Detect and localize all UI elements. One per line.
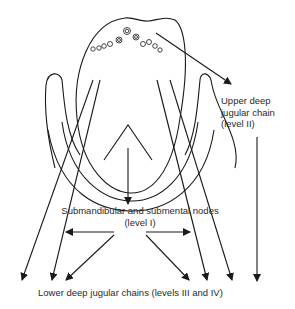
tongue-outline	[76, 18, 185, 118]
label-lower-deep-jugular: Lower deep jugular chains (levels III an…	[38, 287, 223, 299]
arrow-left-outer	[22, 80, 93, 280]
arrow-level1-lower-right	[146, 235, 189, 280]
left-lobe-outline	[45, 74, 80, 168]
label-submandibular: Submandibular and submental nodes (level…	[40, 205, 240, 228]
label-line: jugular chain	[221, 107, 275, 119]
lymph-node-cluster	[91, 28, 162, 53]
label-line: (level I)	[40, 217, 240, 229]
arrow-to-upper-jugular	[156, 33, 231, 84]
arrow-level1-lower-left	[66, 235, 114, 280]
label-line: Submandibular and submental nodes	[40, 205, 240, 217]
arrow-right-inner	[157, 80, 207, 280]
label-upper-deep-jugular: Upper deep jugular chain (level II)	[221, 95, 275, 130]
label-line: Upper deep	[221, 95, 275, 107]
tongue-lymph-drainage-diagram	[0, 0, 295, 309]
label-line: (level II)	[221, 118, 275, 130]
